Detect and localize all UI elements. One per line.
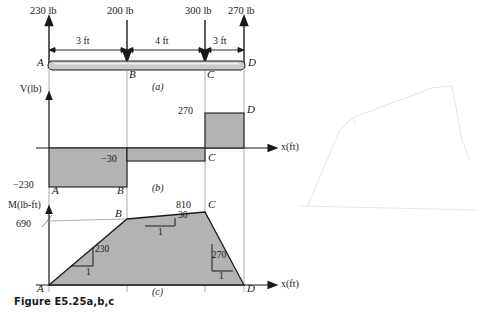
moment-point-B: B: [115, 208, 122, 219]
moment-panel: [0, 0, 480, 318]
moment-y-axis-label: M(lb-ft): [8, 200, 41, 210]
moment-area: [49, 212, 244, 285]
figure-caption: Figure E5.25a,b,c: [14, 296, 114, 307]
moment-point-C: C: [208, 199, 215, 210]
slope-run-CD: 1: [219, 272, 224, 282]
panel-label-c: (c): [152, 287, 163, 297]
slope-label-AB: 230: [95, 245, 109, 255]
slope-label-CD: 270: [212, 251, 226, 261]
slope-run-AB: 1: [86, 268, 91, 278]
slope-run-BC: 1: [158, 228, 163, 238]
figure-shear-moment-diagram: 230 lb 200 lb 300 lb 270 lb 3 ft 4 ft 3 …: [0, 0, 480, 318]
moment-point-A: A: [37, 283, 44, 294]
slope-label-BC: 30: [178, 211, 188, 221]
moment-x-axis-label: x(ft): [281, 279, 299, 289]
moment-value-B: 690: [16, 219, 31, 229]
moment-value-C: 810: [176, 200, 191, 210]
moment-point-D: D: [247, 283, 255, 294]
leader-690: [47, 219, 126, 221]
moment-y-axis: [46, 206, 52, 285]
